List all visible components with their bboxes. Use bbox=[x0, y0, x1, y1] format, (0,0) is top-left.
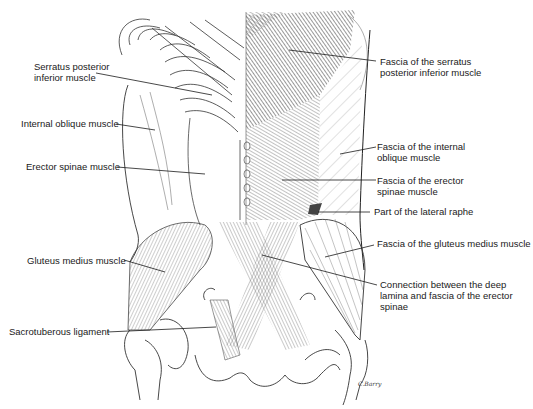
leader-erector-spinae bbox=[117, 167, 205, 174]
label-serratus-posterior-inferior: Serratus posterior inferior muscle bbox=[34, 61, 110, 83]
leader-sacrotuberous bbox=[107, 327, 216, 332]
label-fascia-internal-oblique: Fascia of the internal oblique muscle bbox=[377, 141, 465, 163]
label-erector-spinae: Erector spinae muscle bbox=[26, 161, 120, 172]
left-ribcage bbox=[119, 19, 244, 132]
label-gluteus-medius: Gluteus medius muscle bbox=[27, 255, 126, 266]
label-internal-oblique: Internal oblique muscle bbox=[21, 118, 119, 129]
left-gluteus-medius bbox=[128, 222, 212, 330]
label-fascia-gluteus-medius: Fascia of the gluteus medius muscle bbox=[377, 238, 531, 249]
left-erector-outline bbox=[188, 118, 200, 225]
label-lateral-raphe: Part of the lateral raphe bbox=[374, 206, 473, 217]
label-deep-lamina-connection: Connection between the deep lamina and f… bbox=[380, 279, 513, 312]
anatomy-figure: Serratus posterior inferior muscle Inter… bbox=[0, 0, 533, 409]
left-flank-outline bbox=[123, 85, 139, 262]
leader-internal-oblique bbox=[116, 124, 155, 130]
label-fascia-serratus: Fascia of the serratus posterior inferio… bbox=[380, 56, 481, 78]
label-sacrotuberous-ligament: Sacrotuberous ligament bbox=[9, 326, 109, 337]
artist-signature: C.Barry bbox=[358, 380, 381, 387]
leader-fascia-gluteus bbox=[325, 245, 374, 257]
label-fascia-erector-spinae: Fascia of the erector spinae muscle bbox=[377, 175, 464, 197]
